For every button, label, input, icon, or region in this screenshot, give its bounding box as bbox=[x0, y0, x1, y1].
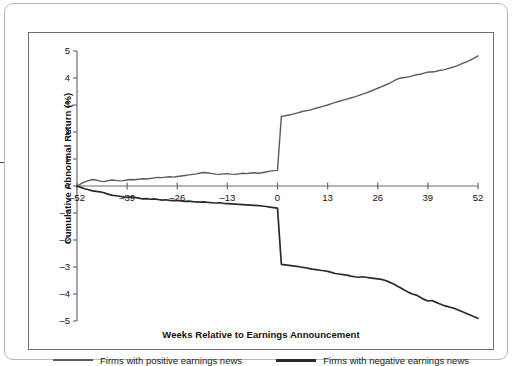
series-line-negative bbox=[77, 186, 478, 318]
y-tick-label: 5 bbox=[65, 45, 70, 56]
series-line-positive bbox=[77, 56, 478, 186]
x-tick-label: 26 bbox=[372, 192, 383, 203]
x-tick-label: 39 bbox=[423, 192, 434, 203]
x-tick-label: –13 bbox=[219, 192, 235, 203]
x-tick-label: 52 bbox=[473, 192, 484, 203]
legend-entry-negative: Firms with negative earnings news bbox=[276, 355, 469, 366]
y-tick-label: 1 bbox=[65, 153, 70, 164]
legend-label-negative: Firms with negative earnings news bbox=[323, 355, 469, 366]
x-tick-label: 0 bbox=[275, 192, 280, 203]
y-tick-label: –4 bbox=[59, 288, 70, 299]
y-tick-label: 2 bbox=[65, 126, 70, 137]
figure-card: Cumulative Abnormal Return (%) 543210–1–… bbox=[4, 3, 508, 360]
y-tick-label: 3 bbox=[65, 99, 70, 110]
legend-swatch-positive-icon bbox=[53, 359, 93, 361]
y-tick-label: –5 bbox=[59, 315, 70, 326]
y-tick-label: –3 bbox=[59, 261, 70, 272]
x-tick-label: –52 bbox=[69, 192, 85, 203]
x-tick-label: 13 bbox=[322, 192, 333, 203]
y-tick-label: 0 bbox=[65, 180, 70, 191]
x-axis-title: Weeks Relative to Earnings Announcement bbox=[29, 329, 493, 340]
figure-page: Cumulative Abnormal Return (%) 543210–1–… bbox=[0, 0, 513, 366]
legend-label-positive: Firms with positive earnings news bbox=[100, 355, 242, 366]
plot-frame: Cumulative Abnormal Return (%) 543210–1–… bbox=[28, 32, 494, 350]
y-tick-label: 4 bbox=[65, 72, 70, 83]
chart-legend: Firms with positive earnings news Firms … bbox=[35, 350, 487, 366]
y-tick-label: –1 bbox=[59, 207, 70, 218]
y-tick-group: 543210–1–2–3–4–5 bbox=[59, 45, 77, 326]
legend-entry-positive: Firms with positive earnings news bbox=[53, 355, 242, 366]
chart-canvas: 543210–1–2–3–4–5 –52–39–26–13013263952 bbox=[29, 33, 493, 349]
y-tick-label: –2 bbox=[59, 234, 70, 245]
legend-swatch-negative-icon bbox=[276, 359, 316, 362]
